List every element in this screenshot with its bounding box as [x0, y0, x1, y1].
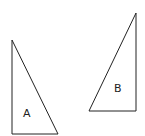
diagram-canvas: A B [0, 0, 145, 136]
triangle-a [12, 40, 58, 134]
triangle-b [89, 13, 136, 111]
triangle-a-label: A [23, 107, 31, 120]
triangle-b-label: B [114, 82, 122, 95]
